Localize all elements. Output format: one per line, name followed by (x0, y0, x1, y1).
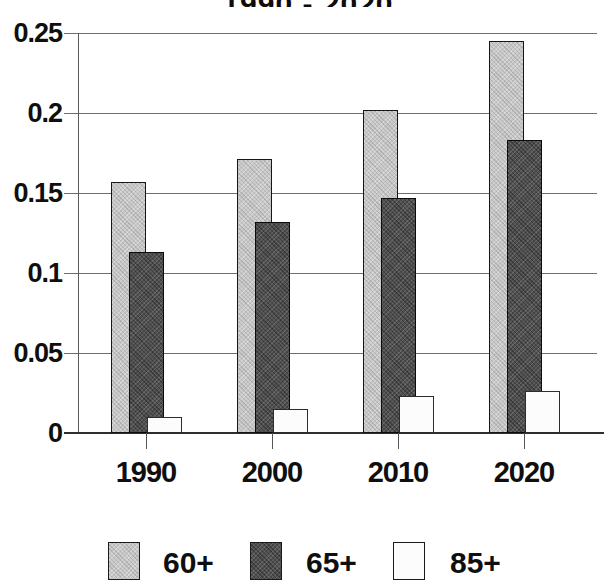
y-axis-label-0.05: 0.05 (0, 338, 62, 368)
x-tick-2020 (524, 433, 525, 449)
bar-85plus-2010 (399, 396, 434, 433)
y-axis-line (78, 33, 79, 433)
y-axis-label-0.15: 0.15 (0, 178, 62, 208)
legend-label-65plus: 65+ (306, 545, 357, 581)
x-tick-2000 (272, 433, 273, 449)
bar-85plus-2020 (525, 391, 560, 433)
legend-swatch-85plus (393, 542, 425, 580)
bar-65plus-2000 (255, 222, 290, 433)
legend-swatch-60plus (108, 542, 140, 580)
y-axis-label-0.25: 0.25 (0, 18, 62, 48)
chart-title-clip: 1990 - 2020 (0, 0, 616, 7)
legend-label-85plus: 85+ (450, 545, 501, 581)
y-axis-label-0.1: 0.1 (0, 258, 62, 288)
y-axis-label-0: 0 (0, 418, 62, 448)
x-axis-label-2020: 2020 (474, 456, 574, 488)
x-axis-label-2010: 2010 (348, 456, 448, 488)
population-age-bar-chart: 1990 - 2020 00.050.10.150.20.25199020002… (0, 0, 616, 586)
y-axis-label-0.2: 0.2 (0, 98, 62, 128)
x-axis-label-1990: 1990 (96, 456, 196, 488)
legend-swatch-65plus (250, 542, 282, 580)
x-tick-1990 (146, 433, 147, 449)
bar-65plus-2020 (507, 140, 542, 433)
y-gridline-0.25 (64, 33, 597, 34)
bar-85plus-2000 (273, 409, 308, 433)
legend-label-60plus: 60+ (163, 545, 214, 581)
bar-85plus-1990 (147, 417, 182, 433)
x-tick-2010 (398, 433, 399, 449)
x-axis-label-2000: 2000 (222, 456, 322, 488)
bar-65plus-1990 (129, 252, 164, 433)
chart-title: 1990 - 2020 (222, 0, 393, 7)
